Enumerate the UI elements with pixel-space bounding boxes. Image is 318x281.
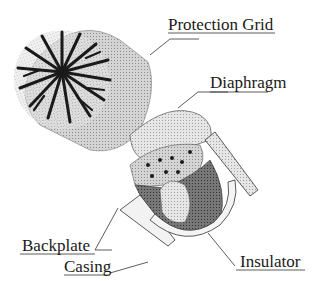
- label-backplate: Backplate: [22, 237, 90, 254]
- label-diaphragm: Diaphragm: [210, 74, 286, 91]
- protection-grid-part: [0, 17, 152, 151]
- label-protection-grid: Protection Grid: [168, 16, 273, 33]
- label-insulator: Insulator: [240, 253, 300, 270]
- label-casing: Casing: [64, 258, 111, 275]
